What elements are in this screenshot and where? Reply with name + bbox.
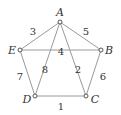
node-a (58, 20, 62, 24)
node-label-b: B (104, 44, 113, 57)
node-label-c: C (91, 93, 100, 106)
node-d (33, 94, 37, 98)
weight-a-b: 5 (83, 26, 89, 37)
weight-a-c: 2 (75, 64, 81, 75)
weight-e-b: 4 (58, 46, 64, 57)
weight-a-d: 8 (42, 64, 48, 75)
edge-a-b (60, 22, 101, 50)
weighted-graph: 3 5 4 8 2 7 6 1 A B C D E (0, 0, 121, 115)
node-c (84, 94, 88, 98)
node-label-a: A (55, 6, 64, 19)
node-e (18, 48, 22, 52)
weight-a-e: 3 (30, 26, 36, 37)
edge-a-d (35, 22, 60, 96)
node-label-e: E (7, 44, 16, 57)
edge-a-e (20, 22, 60, 50)
node-label-d: D (22, 93, 32, 106)
weight-d-c: 1 (58, 101, 64, 112)
weight-b-c: 6 (100, 71, 106, 82)
node-b (99, 48, 103, 52)
weight-e-d: 7 (17, 71, 23, 82)
edge-b-c (86, 50, 101, 96)
